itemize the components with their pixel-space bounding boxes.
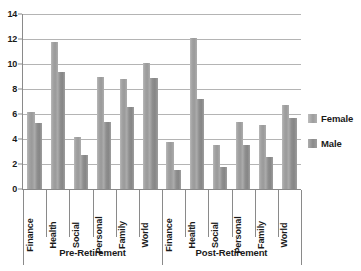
bar-chart: 02468101214 FinanceHealthSocialPersonalF…	[0, 0, 361, 271]
bar	[143, 63, 150, 189]
group-label: Post-Retirement	[162, 247, 301, 258]
category-cell: Personal	[232, 190, 255, 237]
bar	[120, 79, 127, 189]
category-cell: Family	[255, 190, 278, 237]
bar	[243, 145, 250, 189]
category-separator	[116, 190, 117, 237]
y-tick-label: 0	[12, 184, 17, 194]
category-separator	[255, 190, 256, 237]
category-separator	[46, 190, 47, 237]
category-separator	[185, 190, 186, 237]
bar	[35, 123, 42, 189]
legend-label: Female	[321, 113, 353, 124]
legend: FemaleMale	[308, 112, 361, 162]
y-tick-label: 8	[12, 84, 17, 94]
bar	[190, 38, 197, 189]
category-separator	[139, 190, 140, 237]
category-cell: Health	[46, 190, 69, 237]
bar	[104, 122, 111, 190]
group-axis: Pre-RetirementPost-Retirement	[23, 237, 301, 265]
category-separator	[232, 190, 233, 237]
bar	[197, 99, 204, 189]
bar	[27, 112, 34, 190]
legend-label: Male	[321, 138, 342, 149]
category-separator	[208, 190, 209, 237]
y-tick-label: 14	[7, 9, 17, 19]
category-axis: FinanceHealthSocialPersonalFamilyWorldFi…	[23, 190, 301, 237]
bar	[51, 42, 58, 190]
group-label: Pre-Retirement	[23, 247, 162, 258]
bar	[150, 78, 157, 189]
bar	[259, 125, 266, 189]
category-cell: Health	[185, 190, 208, 237]
legend-swatch-icon	[308, 139, 317, 148]
category-cell: Social	[69, 190, 92, 237]
category-separator	[69, 190, 70, 237]
category-cell: Finance	[23, 190, 46, 237]
category-cell: Personal	[93, 190, 116, 237]
group-cell: Post-Retirement	[162, 237, 301, 265]
category-cell: World	[139, 190, 162, 237]
group-cell: Pre-Retirement	[23, 237, 162, 265]
y-tick-label: 12	[7, 34, 17, 44]
category-cell: Social	[208, 190, 231, 237]
bar	[282, 105, 289, 189]
category-separator	[93, 190, 94, 237]
bars-layer	[23, 14, 301, 189]
bar	[213, 145, 220, 189]
category-separator	[301, 190, 302, 237]
y-tick-label: 2	[12, 159, 17, 169]
bar	[97, 77, 104, 190]
plot-area	[23, 14, 301, 189]
category-separator	[162, 190, 163, 237]
bar	[174, 170, 181, 189]
bar	[236, 122, 243, 190]
category-cell: Finance	[162, 190, 185, 237]
y-tick-label: 10	[7, 59, 17, 69]
group-separator	[162, 237, 163, 265]
legend-swatch-icon	[308, 114, 317, 123]
bar	[127, 107, 134, 190]
bar	[166, 142, 173, 190]
category-separator	[23, 190, 24, 237]
bar	[58, 72, 65, 190]
bar	[266, 157, 273, 190]
legend-item-female[interactable]: Female	[308, 112, 361, 124]
bar	[220, 167, 227, 190]
group-separator	[301, 237, 302, 265]
bar	[289, 118, 296, 189]
category-cell: Family	[116, 190, 139, 237]
y-axis: 02468101214	[0, 0, 22, 190]
legend-item-male[interactable]: Male	[308, 137, 361, 149]
y-tick-label: 4	[12, 134, 17, 144]
group-separator	[23, 237, 24, 265]
category-cell: World	[278, 190, 301, 237]
category-separator	[278, 190, 279, 237]
bar	[74, 137, 81, 190]
bar	[81, 155, 88, 189]
y-tick-label: 6	[12, 109, 17, 119]
